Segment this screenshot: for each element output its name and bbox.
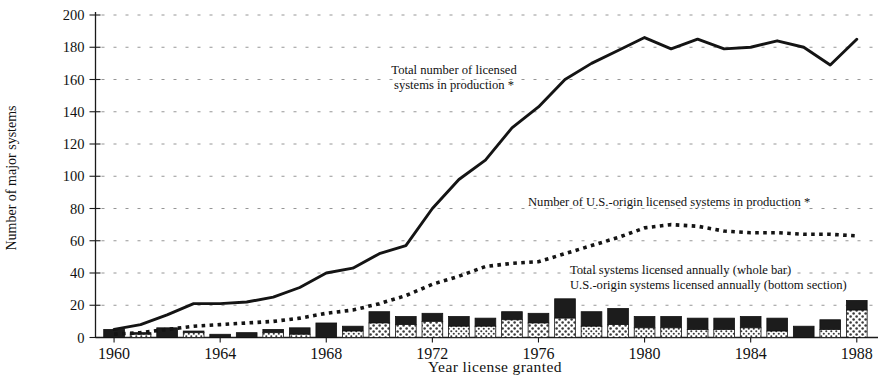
- stacked-bar: [687, 318, 708, 337]
- x-tick-label: 1968: [310, 345, 342, 362]
- bar-segment-non-us: [396, 317, 417, 325]
- us-line-label-line: Number of U.S.-origin licensed systems i…: [528, 195, 810, 209]
- x-tick-label: 1988: [841, 345, 873, 362]
- stacked-bar: [502, 312, 523, 338]
- bar-segment-non-us: [289, 328, 310, 334]
- bar-segment-us-origin: [396, 325, 417, 338]
- stacked-bar: [820, 320, 841, 338]
- bar-segment-non-us: [236, 333, 257, 338]
- stacked-bar: [740, 317, 761, 338]
- y-axis-title: Number of major systems: [4, 105, 19, 250]
- bar-segment-non-us: [369, 312, 390, 323]
- bar-legend-label-line: Total systems licensed annually (whole b…: [570, 263, 791, 277]
- stacked-bar: [422, 313, 443, 337]
- x-axis-title: Year license granted: [428, 358, 562, 375]
- stacked-bar: [634, 317, 655, 338]
- bar-segment-us-origin: [608, 325, 629, 338]
- bar-segment-non-us: [581, 312, 602, 327]
- bar-segment-non-us: [687, 318, 708, 329]
- bar-segment-non-us: [422, 313, 443, 321]
- bar-segment-non-us: [316, 323, 337, 338]
- stacked-bar: [528, 313, 549, 337]
- bar-segment-us-origin: [449, 326, 470, 337]
- us-line-label: Number of U.S.-origin licensed systems i…: [528, 195, 810, 209]
- bar-segment-non-us: [555, 299, 576, 318]
- stacked-bar: [846, 300, 867, 337]
- x-tick-label: 1980: [629, 345, 661, 362]
- stacked-bar: [263, 329, 284, 337]
- bar-segment-us-origin: [555, 318, 576, 337]
- stacked-bar: [449, 317, 470, 338]
- stacked-bar: [608, 308, 629, 337]
- y-tick-label: 140: [63, 104, 85, 120]
- stacked-bar: [581, 312, 602, 338]
- bar-segment-us-origin: [369, 323, 390, 338]
- chart-container: 020406080100120140160180200 196019641968…: [0, 0, 881, 378]
- bar-segment-non-us: [342, 326, 363, 331]
- bar-segment-us-origin: [263, 333, 284, 338]
- bar-segment-non-us: [846, 300, 867, 310]
- y-tick-label: 0: [77, 330, 84, 346]
- total-line-label-line: Total number of licensed: [391, 63, 517, 77]
- stacked-bar: [210, 334, 231, 337]
- bar-segment-non-us: [767, 318, 788, 331]
- y-tick-label: 200: [63, 7, 85, 23]
- bar-legend-label-line: U.S.-origin systems licensed annually (b…: [570, 278, 847, 292]
- stacked-bar: [475, 318, 496, 337]
- bar-segment-us-origin: [767, 331, 788, 337]
- bar-segment-us-origin: [289, 334, 310, 337]
- y-tick-label: 20: [70, 297, 85, 313]
- bar-segment-non-us: [157, 328, 178, 338]
- stacked-bar: [369, 312, 390, 338]
- y-tick-label: 160: [63, 72, 85, 88]
- bar-segment-us-origin: [183, 333, 204, 338]
- bar-segment-us-origin: [846, 310, 867, 337]
- x-tick-label: 1960: [98, 345, 130, 362]
- bar-segment-non-us: [449, 317, 470, 327]
- stacked-bar: [555, 299, 576, 338]
- bar-segment-non-us: [210, 334, 231, 337]
- bar-segment-us-origin: [634, 328, 655, 338]
- bar-segment-non-us: [502, 312, 523, 320]
- bar-segment-us-origin: [422, 321, 443, 337]
- bar-segment-us-origin: [687, 329, 708, 337]
- bar-segment-non-us: [528, 313, 549, 323]
- x-tick-label: 1964: [204, 345, 236, 362]
- bar-segment-us-origin: [342, 331, 363, 337]
- bar-segment-us-origin: [502, 320, 523, 338]
- stacked-bar: [661, 317, 682, 338]
- stacked-bar: [396, 317, 417, 338]
- bar-segment-non-us: [608, 308, 629, 324]
- y-tick-label: 100: [63, 168, 85, 184]
- bar-segment-non-us: [475, 318, 496, 326]
- y-tick-label: 80: [70, 201, 85, 217]
- stacked-bar: [793, 326, 814, 337]
- stacked-bar: [316, 323, 337, 338]
- stacked-bar: [157, 328, 178, 338]
- stacked-bar: [714, 318, 735, 337]
- licensed-systems-chart: 020406080100120140160180200 196019641968…: [0, 0, 881, 378]
- bar-segment-non-us: [820, 320, 841, 330]
- bar-segment-us-origin: [581, 326, 602, 337]
- bar-segment-non-us: [263, 329, 284, 332]
- bar-segment-non-us: [793, 326, 814, 337]
- bar-segment-us-origin: [661, 328, 682, 338]
- stacked-bar: [767, 318, 788, 337]
- y-tick-label: 40: [70, 265, 85, 281]
- bar-segment-non-us: [634, 317, 655, 328]
- total-line-label-line: systems in production *: [394, 78, 514, 92]
- bar-segment-us-origin: [714, 329, 735, 337]
- bar-segment-us-origin: [740, 328, 761, 338]
- y-tick-label: 180: [63, 39, 85, 55]
- bar-segment-non-us: [740, 317, 761, 328]
- stacked-bar: [289, 328, 310, 338]
- total-line-label: Total number of licensedsystems in produ…: [391, 63, 517, 92]
- bar-segment-us-origin: [475, 326, 496, 337]
- stacked-bar: [236, 333, 257, 338]
- stacked-bar: [342, 326, 363, 337]
- y-tick-label: 120: [63, 136, 85, 152]
- bar-segment-us-origin: [528, 323, 549, 338]
- x-tick-label: 1984: [735, 345, 767, 362]
- bar-segment-non-us: [714, 318, 735, 329]
- bar-segment-us-origin: [820, 329, 841, 337]
